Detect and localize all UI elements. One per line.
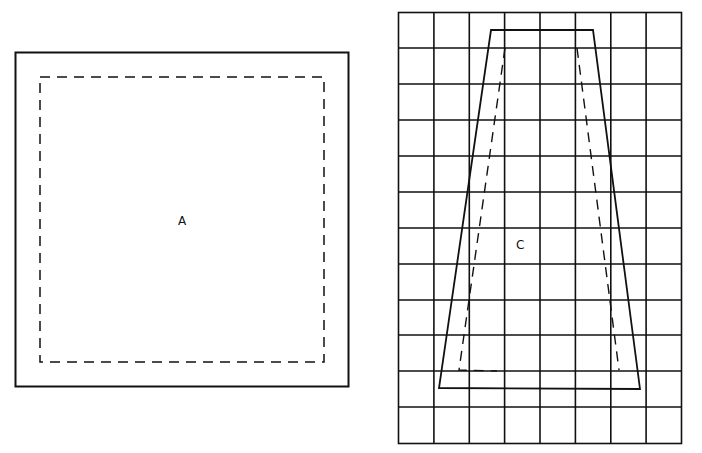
pattern-diagram: A C (0, 0, 702, 453)
panel-a-label: A (178, 214, 187, 228)
panel-c-label: C (516, 238, 524, 252)
panel-c: C (398, 12, 682, 444)
trapezoid-seam-line-right (577, 48, 619, 370)
panel-a: A (16, 53, 349, 387)
